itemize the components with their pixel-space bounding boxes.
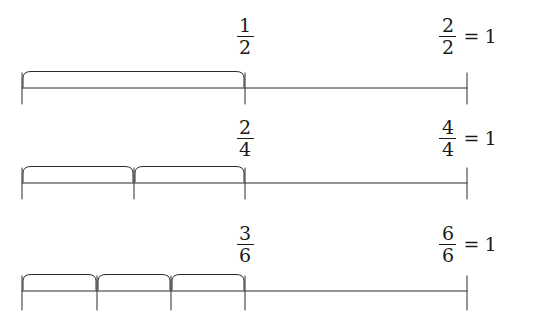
brace-segment-2 [135,167,244,183]
number-line-row-halves: 1 2 2 2 = 1 [0,0,535,108]
equivalent-fractions-figure: 1 2 2 2 = 1 [0,0,535,324]
number-line-graphic-halves [0,0,535,108]
number-line-row-fourths: 2 4 4 4 = 1 [0,106,535,214]
brace-segment-3 [172,275,244,291]
brace-segment-1 [23,275,96,291]
number-line-row-sixths: 3 6 6 6 = 1 [0,212,535,320]
brace-segment-1 [23,72,244,88]
number-line-graphic-sixths [0,212,535,324]
brace-segment-2 [98,275,170,291]
brace-segment-1 [23,167,133,183]
number-line-graphic-fourths [0,106,535,214]
